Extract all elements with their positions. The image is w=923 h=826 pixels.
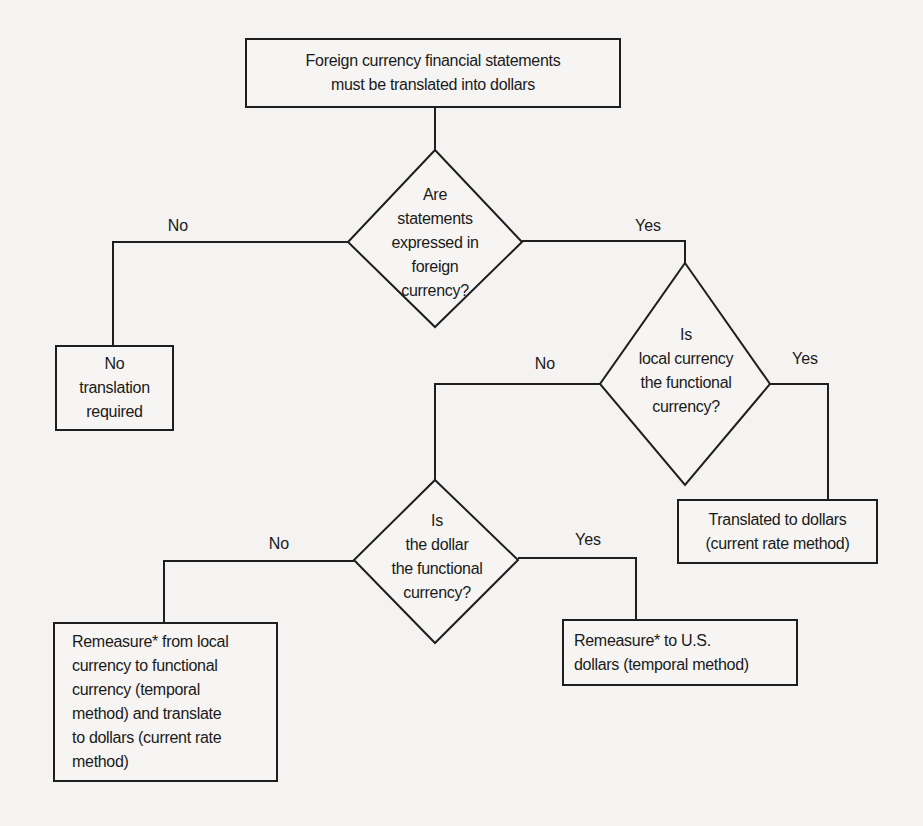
edge-label-d2-no: No [535, 355, 555, 373]
edge-label-d2-yes: Yes [792, 350, 818, 368]
edge-d3-yes [518, 558, 636, 620]
decision-1-line: foreign [391, 255, 478, 279]
outcome-line: (current rate method) [706, 532, 850, 556]
outcome-line: Translated to dollars [708, 508, 846, 532]
decision-3-line: currency? [392, 581, 483, 605]
outcome-line: Remeasure* from local [72, 630, 228, 654]
edge-d2-no [435, 384, 600, 480]
outcome-line: method) [72, 750, 129, 774]
outcome-no-translation-box: No translation required [55, 345, 174, 431]
edge-label-d3-yes: Yes [575, 531, 601, 549]
decision-2-line: the functional [639, 371, 734, 395]
outcome-current-rate-box: Translated to dollars (current rate meth… [677, 499, 878, 564]
decision-3-text: Is the dollar the functional currency? [392, 509, 483, 605]
edge-d1-yes [522, 241, 685, 263]
decision-2-line: Is [639, 323, 734, 347]
outcome-line: currency to functional [72, 654, 217, 678]
decision-3-line: the functional [392, 557, 483, 581]
decision-2-line: local currency [639, 347, 734, 371]
outcome-line: currency (temporal [72, 678, 200, 702]
edge-label-d1-yes: Yes [635, 217, 661, 235]
decision-1-line: statements [391, 207, 478, 231]
decision-3-line: Is [392, 509, 483, 533]
outcome-line: dollars (temporal method) [574, 653, 749, 677]
decision-2-line: currency? [639, 395, 734, 419]
outcome-line: method) and translate [72, 702, 221, 726]
outcome-remeasure-translate-box: Remeasure* from local currency to functi… [53, 622, 278, 782]
outcome-line: translation [79, 376, 150, 400]
decision-3-line: the dollar [392, 533, 483, 557]
outcome-line: Remeasure* to U.S. [574, 629, 711, 653]
outcome-line: No [105, 352, 125, 376]
decision-2-text: Is local currency the functional currenc… [639, 323, 734, 419]
decision-1-line: Are [391, 183, 478, 207]
edge-label-d3-no: No [269, 535, 289, 553]
edge-d1-no [113, 242, 348, 345]
edge-label-d1-no: No [168, 217, 188, 235]
decision-1-line: currency? [391, 279, 478, 303]
edge-d2-yes [770, 384, 828, 500]
start-box: Foreign currency financial statements mu… [245, 38, 621, 108]
outcome-line: to dollars (current rate [72, 726, 221, 750]
decision-1-text: Are statements expressed in foreign curr… [391, 183, 478, 303]
decision-1-line: expressed in [391, 231, 478, 255]
outcome-line: required [86, 400, 142, 424]
start-line-2: must be translated into dollars [331, 73, 535, 97]
outcome-temporal-box: Remeasure* to U.S. dollars (temporal met… [562, 619, 798, 686]
start-line-1: Foreign currency financial statements [306, 49, 561, 73]
edge-d3-no [164, 561, 354, 622]
